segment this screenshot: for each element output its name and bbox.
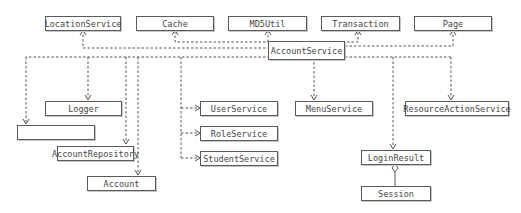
edge-to-page: [345, 32, 453, 46]
aggregation-diamond-icon: [392, 164, 398, 172]
node-noticesend[interactable]: [17, 125, 95, 140]
node-cache[interactable]: Cache: [136, 16, 214, 31]
node-locationservice[interactable]: LocationService: [45, 16, 121, 31]
node-loginresult[interactable]: LoginResult: [361, 150, 431, 165]
node-page[interactable]: Page: [414, 16, 492, 31]
node-resourceactionservice[interactable]: ResourceActionService: [405, 101, 509, 116]
edge-to-locationservice: [83, 32, 270, 48]
node-transaction[interactable]: Transaction: [321, 16, 400, 31]
node-account[interactable]: Account: [87, 176, 156, 191]
node-accountrepository[interactable]: AccountRepository: [57, 146, 134, 161]
node-userservice[interactable]: UserService: [200, 101, 278, 116]
node-menuservice[interactable]: MenuService: [295, 101, 373, 116]
node-accountservice[interactable]: AccountService: [268, 41, 345, 60]
node-session[interactable]: Session: [361, 186, 431, 201]
node-roleservice[interactable]: RoleService: [200, 126, 278, 141]
node-logger[interactable]: Logger: [45, 101, 122, 116]
edge-to-cache: [175, 32, 270, 42]
node-studentservice[interactable]: StudentService: [200, 151, 278, 166]
node-md5util[interactable]: MD5Util: [228, 16, 307, 31]
